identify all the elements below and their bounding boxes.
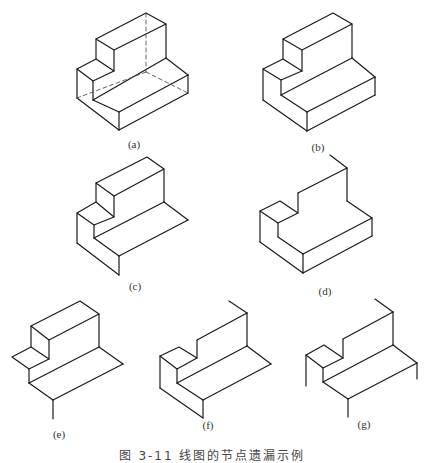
subfigure-a-drawing [77,13,188,130]
subfigure-label-d: (d) [319,285,332,297]
subfigure-f-drawing [160,301,271,418]
subfigure-b-drawing [263,13,375,131]
subfigure-g-drawing [306,299,417,417]
subfigure-label-f: (f) [203,419,214,431]
figure-caption: 图 3-11 线图的节点遗漏示例 [119,446,306,463]
subfigure-label-c: (c) [129,280,141,292]
subfigure-label-b: (b) [312,141,325,153]
subfigure-label-g: (g) [358,418,371,430]
subfigure-label-a: (a) [128,138,140,150]
subfigure-e-drawing [12,301,123,419]
subfigure-d-drawing [260,155,372,273]
subfigure-c-drawing [77,157,188,275]
subfigure-label-e: (e) [53,428,65,440]
